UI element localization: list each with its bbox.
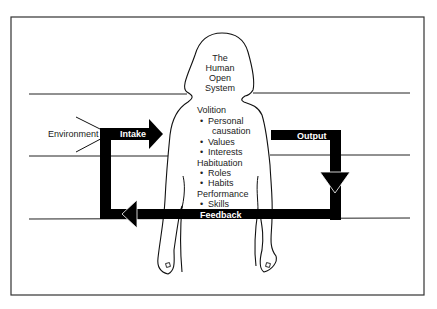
- item-roles: Roles: [208, 168, 232, 178]
- item-skills: Skills: [208, 199, 230, 209]
- subsystem-performance: Performance: [197, 189, 249, 199]
- item-personal-causation: Personal: [208, 116, 244, 126]
- svg-text:Open: Open: [209, 73, 231, 83]
- svg-text:System: System: [205, 83, 235, 93]
- feedback-return-bar: [100, 128, 111, 219]
- intake-label: Intake: [120, 129, 146, 139]
- svg-text:•: •: [200, 199, 203, 209]
- svg-text:•: •: [200, 137, 203, 147]
- output-label: Output: [297, 131, 327, 141]
- svg-text:•: •: [200, 178, 203, 188]
- svg-text:•: •: [200, 168, 203, 178]
- item-interests: Interests: [208, 147, 243, 157]
- svg-text:Human: Human: [205, 63, 234, 73]
- subsystem-volition: Volition: [197, 105, 226, 115]
- svg-text:The: The: [212, 53, 228, 63]
- svg-text:causation: causation: [212, 126, 251, 136]
- subsystem-habituation: Habituation: [197, 158, 243, 168]
- item-habits: Habits: [208, 178, 234, 188]
- output-arrow: [271, 130, 350, 220]
- svg-text:•: •: [200, 116, 203, 126]
- item-values: Values: [208, 137, 235, 147]
- environment-label: Environment: [48, 129, 99, 139]
- open-system-diagram: Environment Intake Output Feedback The H…: [0, 0, 437, 309]
- svg-text:•: •: [200, 147, 203, 157]
- feedback-label: Feedback: [200, 210, 243, 220]
